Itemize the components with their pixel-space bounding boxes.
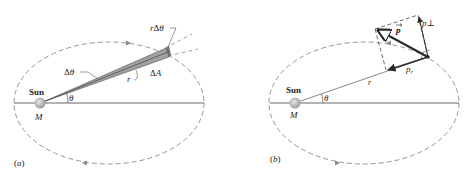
extension-line-2 (168, 49, 198, 56)
mass-label: M (34, 112, 43, 122)
theta-label: θ (324, 93, 329, 103)
delta-theta-label: Δθ (64, 67, 75, 77)
theta-label: θ (69, 93, 74, 103)
area-label: ΔA (150, 68, 162, 78)
orbit-direction-arrow-bottom (335, 161, 340, 166)
orbit-direction-arrow-top (126, 41, 131, 46)
mass-label: M (289, 110, 298, 120)
component-box-side (375, 29, 386, 70)
radius-label: r (368, 78, 372, 87)
planet-point (426, 55, 430, 59)
theta-arc (67, 93, 69, 103)
caption-b: (b) (270, 154, 281, 164)
sun-label: Sun (286, 85, 301, 95)
orbit-direction-arrow-bottom (82, 161, 87, 166)
panel-a: rΔθ Δθ r ΔA θ Sun M (a) (14, 23, 204, 168)
r-leader (134, 70, 137, 80)
sun (35, 98, 46, 109)
sun (290, 98, 301, 109)
extension-line-1 (165, 34, 192, 48)
arc-length-label: rΔθ (150, 23, 164, 33)
radius-label: r (127, 74, 131, 84)
sun-label: Sun (29, 87, 44, 97)
orbit-direction-arrow-top (386, 41, 391, 46)
delta-theta-leader (80, 72, 98, 79)
panel-b: p p⊥ pr r θ Sun M (b) (269, 15, 459, 166)
theta-arc (322, 94, 324, 103)
caption-a: (a) (14, 158, 25, 168)
kepler-diagram: rΔθ Δθ r ΔA θ Sun M (a) p p⊥ pr r θ Sun (0, 0, 470, 172)
momentum-perp-label: p⊥ (421, 18, 435, 28)
momentum-radial-label: pr (405, 64, 414, 75)
